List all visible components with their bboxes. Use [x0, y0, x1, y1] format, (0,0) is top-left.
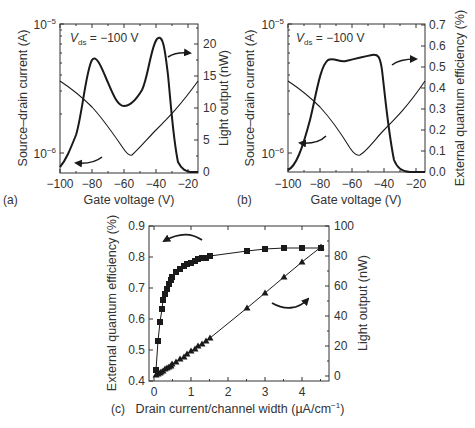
panel-label: (b)	[237, 193, 252, 207]
x-tick-label: −20	[406, 177, 427, 191]
y-right-tick-label: 0.0	[429, 165, 446, 179]
x-tick-label: −40	[146, 177, 167, 191]
y-tick-label: 0.7	[128, 281, 145, 295]
x-tick-label: −100	[46, 177, 73, 191]
x-axis-label: Drain current/channel width (µA/cm−1)	[136, 401, 345, 416]
x-tick-label: 1	[188, 385, 195, 399]
y-right-tick-label: 0.6	[429, 39, 446, 53]
y-tick-label: 0.8	[128, 250, 145, 264]
x-tick-label: −60	[114, 177, 135, 191]
x-axis-label: Gate voltage (V)	[310, 193, 401, 207]
arrow-to-left-axis-a	[76, 157, 102, 163]
y-right-tick-label: 20	[334, 339, 348, 353]
y-right-tick-label: 80	[334, 249, 348, 263]
panel-a: −100 −80 −60 −40 −20 10−5 10−6 0 5 10 15…	[3, 17, 231, 207]
y-tick-label: 0.6	[128, 312, 145, 326]
light-output-curve-a	[60, 38, 198, 172]
y-tick-label-bottom: 10−6	[34, 146, 57, 161]
x-tick-label: −40	[374, 177, 395, 191]
y-right-tick-label: 0.5	[429, 60, 446, 74]
y-tick-label: 0.9	[128, 219, 145, 233]
y-right-tick-label: 15	[203, 69, 217, 83]
arrow-to-right-axis-b	[392, 59, 416, 65]
y-right-axis-label: Light output (nW)	[356, 255, 370, 351]
x-tick-label: 4	[299, 385, 306, 399]
x-axis-label: Gate voltage (V)	[83, 193, 174, 207]
panel-label: (a)	[3, 193, 18, 207]
y-tick-label: 0.5	[128, 343, 145, 357]
x-tick-label: −60	[342, 177, 363, 191]
x-tick-label: 2	[225, 385, 232, 399]
vds-annotation: Vds = −100 V	[70, 31, 139, 47]
y-right-axis-label: Light output (nW)	[217, 50, 231, 146]
x-tick-label: −100	[274, 177, 301, 191]
y-right-tick-label: 0	[334, 369, 341, 383]
current-curve-b	[288, 81, 425, 155]
y-right-axis-label: External quantum efficiency (%)	[453, 10, 467, 186]
y-axis-label: External quantum efficiency (%)	[105, 215, 119, 391]
y-right-tick-label: 100	[334, 219, 354, 233]
x-tick-label: −20	[178, 177, 199, 191]
figure: −100 −80 −60 −40 −20 10−5 10−6 0 5 10 15…	[0, 0, 475, 428]
y-axis-label: Source–drain current (A)	[243, 30, 257, 167]
x-tick-label: −80	[310, 177, 331, 191]
y-right-tick-label: 40	[334, 309, 348, 323]
vds-annotation: Vds = −100 V	[296, 31, 365, 47]
x-tick-label: 3	[262, 385, 269, 399]
y-axis-label: Source–drain current (A)	[16, 30, 30, 167]
arrow-to-right-axis-c	[272, 299, 308, 308]
panel-b: −100 −80 −60 −40 −20 10−5 10−6 0.0 0.1 0…	[237, 10, 467, 207]
y-right-tick-label: 60	[334, 279, 348, 293]
arrow-to-left-axis-c	[164, 235, 202, 242]
panel-label: (c)	[111, 402, 125, 416]
y-right-tick-label: 0.7	[429, 18, 446, 32]
y-right-tick-label: 20	[203, 37, 217, 51]
panel-c: 0 1 2 3 4 0.4 0.5 0.6 0.7 0.8 0.9 0 20 4…	[105, 215, 370, 416]
y-right-tick-label: 0.3	[429, 102, 446, 116]
x-tick-label: 0	[151, 385, 158, 399]
arrow-to-right-axis-a	[168, 53, 190, 57]
y-right-tick-label: 5	[203, 133, 210, 147]
y-right-tick-label: 10	[203, 101, 217, 115]
eqe-markers-c	[153, 245, 324, 373]
y-tick-label: 0.4	[128, 374, 145, 388]
y-right-tick-label: 0.2	[429, 123, 446, 137]
y-right-tick-label: 0.4	[429, 81, 446, 95]
x-tick-label: −80	[82, 177, 103, 191]
y-tick-label-bottom: 10−6	[262, 146, 285, 161]
light-output-markers-c	[153, 244, 325, 378]
y-right-tick-label: 0.1	[429, 144, 446, 158]
y-right-tick-label: 0	[203, 165, 210, 179]
y-tick-label-top: 10−5	[262, 17, 285, 32]
y-tick-label-top: 10−5	[34, 17, 57, 32]
